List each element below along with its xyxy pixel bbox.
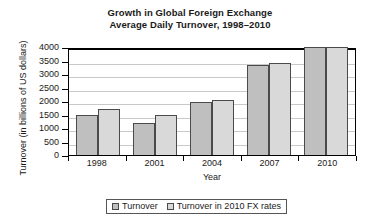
bar-group-2010 bbox=[304, 50, 348, 155]
y-axis-tick-label: 4000 bbox=[39, 42, 59, 52]
bar-group-2001 bbox=[133, 50, 177, 155]
bar-2004-series-0[interactable] bbox=[190, 102, 212, 155]
bar-group-2004 bbox=[190, 50, 234, 155]
legend-item-0[interactable]: Turnover bbox=[112, 201, 158, 211]
x-axis-tick-label-2001: 2001 bbox=[128, 158, 180, 168]
chart-title-line-1: Growth in Global Foreign Exchange bbox=[60, 7, 320, 19]
bar-2010-series-1[interactable] bbox=[326, 47, 348, 155]
bar-2004-series-1[interactable] bbox=[212, 100, 234, 155]
bar-group-1998 bbox=[76, 50, 120, 155]
y-axis-tick-labels: 40003500300025002000150010005000 bbox=[0, 48, 68, 156]
x-axis-tick-label-2004: 2004 bbox=[186, 158, 238, 168]
bar-2001-series-1[interactable] bbox=[155, 115, 177, 156]
chart-legend: TurnoverTurnover in 2010 FX rates bbox=[106, 199, 287, 214]
legend-label-1: Turnover in 2010 FX rates bbox=[177, 201, 281, 211]
bar-2007-series-1[interactable] bbox=[269, 63, 291, 155]
y-axis-tick-label: 1500 bbox=[39, 110, 59, 120]
y-axis-tick-label: 3000 bbox=[39, 69, 59, 79]
plot-area bbox=[68, 48, 356, 156]
y-axis-tick-label: 500 bbox=[44, 137, 59, 147]
x-axis-tick-label-2007: 2007 bbox=[244, 158, 296, 168]
x-axis-tick-labels: 19982001200420072010 bbox=[68, 158, 356, 168]
bar-2001-series-0[interactable] bbox=[133, 123, 155, 155]
legend-swatch-0 bbox=[112, 203, 119, 210]
y-axis-tick-label: 2500 bbox=[39, 83, 59, 93]
bar-chart-figure: Growth in Global Foreign Exchange Averag… bbox=[0, 0, 377, 224]
bar-1998-series-0[interactable] bbox=[76, 115, 98, 156]
legend-item-1[interactable]: Turnover in 2010 FX rates bbox=[167, 201, 281, 211]
x-axis-tick-mark bbox=[356, 156, 357, 161]
y-axis-tick-label: 3500 bbox=[39, 56, 59, 66]
chart-title-line-2: Average Daily Turnover, 1998–2010 bbox=[60, 19, 320, 31]
x-axis-title: Year bbox=[68, 172, 356, 182]
chart-title: Growth in Global Foreign Exchange Averag… bbox=[60, 7, 320, 31]
bar-group-2007 bbox=[247, 50, 291, 155]
bar-2010-series-0[interactable] bbox=[304, 47, 326, 155]
y-axis-tick-label: 1000 bbox=[39, 123, 59, 133]
bars-layer bbox=[69, 50, 355, 155]
legend-label-0: Turnover bbox=[122, 201, 158, 211]
y-axis-tick-label: 0 bbox=[54, 150, 59, 160]
bar-2007-series-0[interactable] bbox=[247, 65, 269, 155]
y-axis-tick-label: 2000 bbox=[39, 96, 59, 106]
legend-swatch-1 bbox=[167, 203, 174, 210]
bar-1998-series-1[interactable] bbox=[98, 109, 120, 155]
x-axis-tick-label-2010: 2010 bbox=[301, 158, 353, 168]
x-axis-tick-label-1998: 1998 bbox=[71, 158, 123, 168]
